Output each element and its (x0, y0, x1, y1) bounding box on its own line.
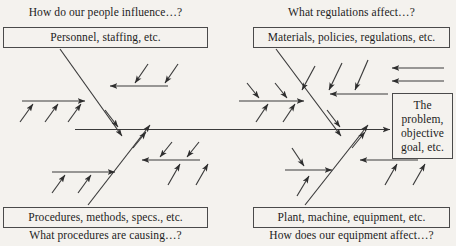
spine-arrow-topleft (105, 110, 118, 127)
twig-regs-r2 (329, 63, 342, 90)
category-box-procedures[interactable]: Procedures, methods, specs., etc. (3, 207, 208, 228)
twig-people-l3 (68, 104, 81, 122)
effect-box-line-4: goal, etc. (401, 140, 444, 154)
effect-box-problem[interactable]: The problem, objective goal, etc. (392, 93, 453, 159)
effect-box-line-3: objective (401, 126, 444, 140)
spine-arrow-topright (327, 110, 340, 127)
twig-equip-r2 (413, 164, 425, 185)
effect-box-line-2: problem, (402, 112, 444, 126)
twig-proc-l1 (52, 175, 65, 193)
twig-equip-l2 (297, 176, 309, 196)
question-label-procedures: What procedures are causing…? (3, 229, 208, 241)
bone-proc-main (88, 125, 150, 205)
twig-regs-l2 (275, 83, 287, 98)
bone-people-main (60, 49, 122, 136)
twig-proc-r2 (187, 142, 199, 157)
twig-people-l2 (45, 104, 58, 122)
category-box-people[interactable]: Personnel, staffing, etc. (3, 27, 208, 48)
question-label-people: How do our people influence…? (3, 6, 208, 18)
fishbone-diagram: Personnel, staffing, etc. Materials, pol… (0, 0, 456, 246)
twig-regs-r3 (355, 60, 368, 90)
twig-proc-r1 (160, 142, 172, 157)
bone-regs-main (276, 49, 341, 136)
twig-proc-r4 (196, 164, 208, 185)
category-box-regulations[interactable]: Materials, policies, regulations, etc. (253, 27, 450, 48)
twig-regs-l4 (283, 104, 295, 122)
question-label-equipment: How does our equipment affect…? (253, 229, 450, 241)
twig-regs-l1 (247, 83, 259, 98)
spine-arrow-botright (352, 132, 365, 148)
twig-people-r1 (135, 64, 148, 83)
twig-regs-r1 (302, 66, 315, 90)
twig-equip-l1 (292, 148, 304, 166)
spine-arrow-botleft (133, 132, 146, 148)
twig-proc-r3 (168, 164, 180, 185)
category-box-equipment[interactable]: Plant, machine, equipment, etc. (253, 207, 450, 228)
effect-box-line-1: The (413, 98, 431, 112)
twig-equip-r1 (385, 164, 397, 185)
twig-people-r2 (165, 64, 178, 83)
question-label-regulations: What regulations affect…? (253, 6, 450, 18)
twig-regs-l3 (256, 104, 268, 122)
twig-proc-l2 (78, 175, 91, 193)
twig-people-l1 (20, 104, 33, 122)
bone-equip-main (305, 125, 368, 205)
